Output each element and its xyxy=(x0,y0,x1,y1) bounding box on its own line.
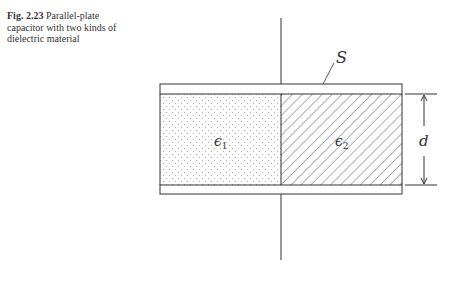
gap-label: d xyxy=(419,132,429,150)
capacitor-diagram: S ϵ1 ϵ2 d xyxy=(0,0,458,294)
top-plate xyxy=(160,84,402,94)
surface-leader-line xyxy=(323,63,334,84)
bottom-plate xyxy=(160,185,402,194)
surface-label: S xyxy=(336,48,347,67)
